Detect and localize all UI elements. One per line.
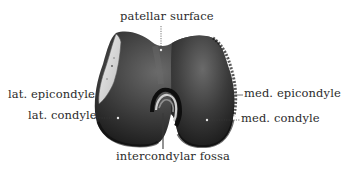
label-intercondylar-fossa: intercondylar fossa <box>116 151 230 163</box>
label-patellar-surface: patellar surface <box>120 11 214 23</box>
label-lat-epicondyle: lat. epicondyle <box>8 89 95 101</box>
label-med-epicondyle: med. epicondyle <box>244 88 341 100</box>
label-lat-condyle: lat. condyle <box>28 110 97 122</box>
label-med-condyle: med. condyle <box>241 113 320 125</box>
femur-bone <box>95 32 236 148</box>
